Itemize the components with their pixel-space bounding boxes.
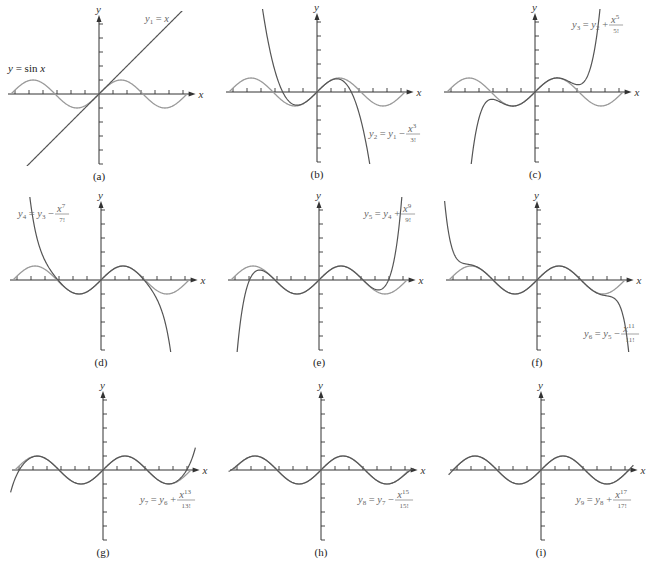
panel-caption: (e) [313, 356, 326, 369]
svg-text:x17: x17 [614, 488, 627, 500]
y-axis-arrow-icon [97, 15, 102, 22]
y-axis-arrow-icon [319, 391, 324, 398]
panel-caption: (h) [315, 546, 328, 559]
svg-text:y6 = y5 −: y6 = y5 − [583, 328, 620, 341]
y-axis-label: y [99, 379, 105, 391]
x-axis-arrow-icon [193, 468, 200, 473]
equation-label: y4 = y3 − x77! [17, 202, 69, 224]
y-axis-arrow-icon [539, 391, 544, 398]
svg-text:y4 = y3 −: y4 = y3 − [17, 208, 54, 221]
y-axis-arrow-icon [533, 13, 538, 20]
svg-text:y2 = y1 −: y2 = y1 − [368, 128, 405, 141]
svg-text:x13: x13 [178, 488, 191, 500]
svg-text:y8 = y7 −: y8 = y7 − [357, 494, 394, 507]
svg-text:9!: 9! [405, 216, 411, 224]
sin-label: y = sin x [7, 62, 45, 74]
svg-text:x15: x15 [396, 488, 409, 500]
panel-d: xyy4 = y3 − x77!(d) [9, 168, 206, 392]
panel-caption: (a) [93, 170, 106, 183]
x-axis-arrow-icon [407, 90, 414, 95]
equation-label: y1 = x [144, 13, 169, 26]
panel-e: xyy5 = y4 + x99!(e) [227, 168, 424, 392]
panel-caption: (f) [532, 356, 543, 369]
panel-caption: (b) [311, 168, 324, 181]
y-axis-arrow-icon [101, 391, 106, 398]
equation-label: y5 = y4 + x99! [363, 202, 415, 224]
x-axis-arrow-icon [189, 92, 196, 97]
panel-caption: (i) [536, 546, 547, 559]
x-axis-arrow-icon [631, 468, 638, 473]
svg-text:y9 = y8 +: y9 = y8 + [575, 494, 612, 507]
panel-c: xyy3 = y2 + x55!(c) [443, 0, 640, 204]
x-axis-arrow-icon [409, 278, 416, 283]
svg-text:y3 = y2 +: y3 = y2 + [571, 19, 608, 32]
equation-label: y7 = y6 + x1313! [139, 488, 195, 510]
taylor-series-figure: xyy1 = xy = sin x(a)xyy2 = y1 − x33!(b)x… [0, 0, 655, 568]
equation-label: y2 = y1 − x33! [368, 122, 420, 144]
x-axis-label: x [416, 86, 422, 98]
x-axis-arrow-icon [627, 278, 634, 283]
svg-text:11!: 11! [626, 336, 635, 344]
y-axis-arrow-icon [99, 201, 104, 208]
y-axis-label: y [315, 189, 321, 201]
y-axis-arrow-icon [315, 13, 320, 20]
svg-text:x9: x9 [402, 202, 412, 214]
svg-text:7!: 7! [59, 216, 65, 224]
y-axis-label: y [95, 3, 101, 15]
panel-caption: (c) [529, 168, 542, 181]
x-axis-label: x [198, 88, 204, 100]
panel-b: xyy2 = y1 − x33!(b) [225, 0, 422, 204]
y-axis-label: y [531, 1, 537, 13]
panel-h: xyy8 = y7 − x1515!(h) [229, 379, 426, 559]
panel-i: xyy9 = y8 + x1717!(i) [449, 379, 646, 559]
svg-text:5!: 5! [613, 27, 619, 35]
x-axis-arrow-icon [625, 90, 632, 95]
svg-text:17!: 17! [617, 502, 626, 510]
svg-text:y7 = y6 +: y7 = y6 + [139, 494, 176, 507]
x-axis-label: x [640, 464, 646, 476]
svg-text:13!: 13! [181, 502, 190, 510]
x-axis-label: x [636, 274, 642, 286]
x-axis-label: x [420, 464, 426, 476]
svg-text:x7: x7 [56, 202, 66, 214]
x-axis-label: x [202, 464, 208, 476]
svg-text:y5 = y4 +: y5 = y4 + [363, 208, 400, 221]
y-axis-label: y [313, 1, 319, 13]
svg-text:y1 = x: y1 = x [144, 13, 169, 26]
y-axis-label: y [533, 189, 539, 201]
svg-text:15!: 15! [399, 502, 408, 510]
x-axis-label: x [418, 274, 424, 286]
y-axis-label: y [97, 189, 103, 201]
equation-label: y8 = y7 − x1515! [357, 488, 413, 510]
equation-label: y9 = y8 + x1717! [575, 488, 631, 510]
y-axis-label: y [317, 379, 323, 391]
panel-a: xyy1 = xy = sin x(a) [7, 2, 204, 187]
x-axis-arrow-icon [191, 278, 198, 283]
y-axis-arrow-icon [317, 201, 322, 208]
y-axis-arrow-icon [535, 201, 540, 208]
svg-text:x11: x11 [622, 322, 635, 334]
panel-caption: (d) [95, 356, 108, 369]
x-axis-label: x [634, 86, 640, 98]
equation-label: y6 = y5 − x1111! [583, 322, 639, 344]
svg-text:3!: 3! [410, 136, 416, 144]
equation-label: y3 = y2 + x55! [571, 13, 623, 35]
panel-g: xyy7 = y6 + x1313!(g) [11, 379, 208, 559]
svg-text:x3: x3 [407, 122, 417, 134]
y-axis-label: y [537, 379, 543, 391]
x-axis-label: x [200, 274, 206, 286]
svg-text:x5: x5 [610, 13, 620, 25]
panel-caption: (g) [97, 546, 110, 559]
panel-f: xyy6 = y5 − x1111!(f) [445, 189, 642, 369]
